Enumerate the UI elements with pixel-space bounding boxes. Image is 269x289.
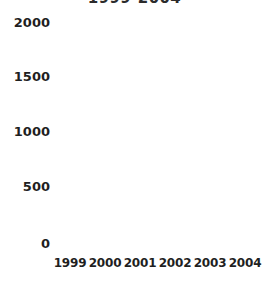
bar-gap-5 bbox=[225, 22, 230, 251]
y-tick-label-2000: 2000 bbox=[4, 16, 50, 29]
bar-chart: 1999-2004 2000 1500 1000 500 0 2085 1613… bbox=[0, 0, 269, 289]
plot-area: 2085 1613 1286 1336 1568 1711 bbox=[55, 22, 263, 251]
y-tick-label-0: 0 bbox=[4, 237, 50, 250]
y-tick-label-1500: 1500 bbox=[4, 70, 50, 83]
gridline-1500 bbox=[55, 76, 263, 78]
chart-title: 1999-2004 bbox=[0, 0, 269, 5]
y-tick-label-500: 500 bbox=[4, 180, 50, 193]
x-tick-label-2000: 2000 bbox=[88, 256, 122, 270]
bar-gap-4 bbox=[190, 22, 195, 251]
x-tick-label-2002: 2002 bbox=[158, 256, 192, 270]
x-axis: 1999 2000 2001 2002 2003 2004 bbox=[55, 256, 263, 276]
x-tick-label-2001: 2001 bbox=[123, 256, 157, 270]
gridline-2000 bbox=[55, 22, 263, 24]
x-tick-label-2004: 2004 bbox=[228, 256, 262, 270]
x-tick-label-2003: 2003 bbox=[193, 256, 227, 270]
gridline-500 bbox=[55, 186, 263, 188]
y-axis: 2000 1500 1000 500 0 bbox=[0, 22, 50, 251]
y-tick-label-1000: 1000 bbox=[4, 125, 50, 138]
bar-gap-2 bbox=[120, 22, 125, 251]
bar-gap-1 bbox=[85, 22, 90, 251]
bar-gap-3 bbox=[155, 22, 160, 251]
x-tick-label-1999: 1999 bbox=[53, 256, 87, 270]
gridline-1000 bbox=[55, 131, 263, 133]
